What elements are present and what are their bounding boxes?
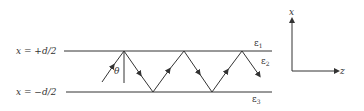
top-boundary-label: x = +d/2 — [16, 46, 57, 56]
waveguide-diagram: x = +d/2 x = −d/2 θ ε1 ε2 ε3 x z — [0, 0, 364, 111]
zigzag-ray — [102, 51, 259, 92]
bottom-boundary-label: x = −d/2 — [16, 87, 57, 97]
epsilon-3-label: ε3 — [252, 94, 261, 105]
angle-theta-label: θ — [114, 66, 120, 76]
coordinate-axes — [292, 20, 337, 71]
z-axis-label: z — [339, 66, 345, 76]
x-axis-label: x — [289, 7, 294, 17]
epsilon-1-label: ε1 — [254, 38, 263, 49]
epsilon-2-label: ε2 — [261, 56, 270, 67]
